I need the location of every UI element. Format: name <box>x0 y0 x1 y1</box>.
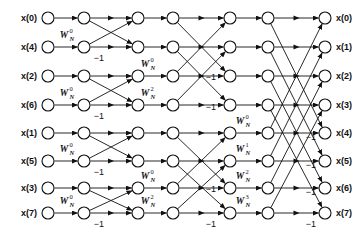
stage-2-straight-top-0-mid-arrow <box>199 16 205 21</box>
svg-text:W: W <box>60 30 69 40</box>
node-col-1-row-6 <box>78 182 90 194</box>
node-col-6-row-0 <box>319 12 331 24</box>
svg-text:0: 0 <box>70 27 73 34</box>
input-label-row-3: x(6) <box>21 100 37 110</box>
stage-1-minus-one-3: −1 <box>94 219 104 229</box>
svg-text:0: 0 <box>70 141 73 148</box>
output-label-row-4: x(4) <box>336 128 352 138</box>
node-col-6-row-5 <box>319 155 331 167</box>
fft-flow-graph-svg: WN0WN0WN0WN0WN0WN2WN0WN2WN0WN1WN2WN3 −1−… <box>0 0 364 236</box>
input-label-row-6: x(3) <box>21 183 37 193</box>
stage-2-twiddle-2: WN0 <box>141 168 156 183</box>
node-col-6-row-3 <box>319 99 331 111</box>
output-label-row-1: x(1) <box>336 42 352 52</box>
svg-text:N: N <box>150 64 156 71</box>
node-col-3-row-4 <box>167 127 179 139</box>
node-col-1-row-3 <box>78 99 90 111</box>
svg-text:W: W <box>60 144 69 154</box>
node-col-0-row-0 <box>42 12 54 24</box>
node-col-1-row-7 <box>78 207 90 219</box>
node-col-0-row-2 <box>42 70 54 82</box>
svg-text:W: W <box>141 171 150 181</box>
node-col-0-row-3 <box>42 99 54 111</box>
stage-2-straight-bottom-6-mid-arrow <box>199 186 205 191</box>
svg-text:N: N <box>150 176 156 183</box>
node-col-1-row-2 <box>78 70 90 82</box>
node-col-1-row-1 <box>78 41 90 53</box>
svg-text:W: W <box>141 59 150 69</box>
stage-1-straight-bottom-3-mid-arrow <box>108 103 114 108</box>
node-col-2-row-1 <box>132 41 144 53</box>
node-col-3-row-6 <box>167 182 179 194</box>
svg-text:0: 0 <box>246 113 249 120</box>
svg-text:2: 2 <box>151 85 154 92</box>
input-label-row-7: x(7) <box>21 208 37 218</box>
node-col-0-row-1 <box>42 41 54 53</box>
node-col-5-row-2 <box>262 70 274 82</box>
stage-3-twiddle-3: WN3 <box>236 193 251 208</box>
node-col-4-row-7 <box>224 207 236 219</box>
stage-2-twiddle-3: WN2 <box>141 193 156 208</box>
output-label-row-6: x(6) <box>336 183 352 193</box>
stage-1-twiddle-0: WN0 <box>60 27 75 42</box>
stage-1-minus-one-1: −1 <box>94 111 104 121</box>
fft-butterfly-diagram: WN0WN0WN0WN0WN0WN2WN0WN2WN0WN1WN2WN3 −1−… <box>0 0 364 236</box>
node-col-6-row-6 <box>319 182 331 194</box>
stage-1-straight-top-4-mid-arrow <box>108 131 114 136</box>
stage-1-twiddle-2: WN0 <box>60 141 75 156</box>
input-label-row-2: x(2) <box>21 71 37 81</box>
node-col-0-row-7 <box>42 207 54 219</box>
svg-text:N: N <box>245 201 251 208</box>
stage-1-twiddle-3: WN0 <box>60 193 75 208</box>
svg-text:N: N <box>245 176 251 183</box>
svg-text:0: 0 <box>151 168 154 175</box>
svg-text:W: W <box>141 88 150 98</box>
svg-text:1: 1 <box>246 141 249 148</box>
node-col-3-row-7 <box>167 207 179 219</box>
node-col-5-row-5 <box>262 155 274 167</box>
svg-text:N: N <box>150 93 156 100</box>
stage-3-straight-top-1-mid-arrow <box>294 45 300 50</box>
node-col-4-row-0 <box>224 12 236 24</box>
node-col-4-row-2 <box>224 70 236 82</box>
stage-3-minus-one-3: −1 <box>306 219 316 229</box>
svg-text:W: W <box>141 196 150 206</box>
stage-3-minus-one-1: −1 <box>306 160 316 170</box>
svg-text:N: N <box>150 201 156 208</box>
output-label-row-5: x(5) <box>336 156 352 166</box>
node-col-2-row-5 <box>132 155 144 167</box>
node-col-2-row-6 <box>132 182 144 194</box>
twiddle-labels-layer: WN0WN0WN0WN0WN0WN2WN0WN2WN0WN1WN2WN3 <box>60 27 251 208</box>
svg-text:W: W <box>236 196 245 206</box>
stage-3-straight-bottom-6-mid-arrow <box>294 186 300 191</box>
svg-text:0: 0 <box>151 56 154 63</box>
stage-2-straight-bottom-3-mid-arrow <box>199 103 205 108</box>
node-col-0-row-5 <box>42 155 54 167</box>
node-col-0-row-4 <box>42 127 54 139</box>
stage-1-minus-one-0: −1 <box>94 53 104 63</box>
stage-2-minus-one-2: −1 <box>206 184 216 194</box>
stage-1-straight-bottom-7-mid-arrow <box>108 211 114 216</box>
stage-2-straight-bottom-7-mid-arrow <box>199 211 205 216</box>
stage-1-straight-top-0-mid-arrow <box>108 16 114 21</box>
stage-1-straight-bottom-1-mid-arrow <box>108 45 114 50</box>
stage-1-minus-one-2: −1 <box>94 167 104 177</box>
node-col-1-row-0 <box>78 12 90 24</box>
node-col-5-row-6 <box>262 182 274 194</box>
svg-text:W: W <box>60 196 69 206</box>
svg-text:N: N <box>69 149 75 156</box>
node-col-2-row-7 <box>132 207 144 219</box>
output-label-row-3: x(3) <box>336 100 352 110</box>
stage-2-minus-one-0: −1 <box>206 72 216 82</box>
stage-1-twiddle-1: WN0 <box>60 85 75 100</box>
svg-text:W: W <box>60 88 69 98</box>
node-col-5-row-0 <box>262 12 274 24</box>
svg-text:N: N <box>69 201 75 208</box>
node-col-3-row-5 <box>167 155 179 167</box>
stage-1-straight-top-2-mid-arrow <box>108 74 114 79</box>
node-col-4-row-3 <box>224 99 236 111</box>
stage-2-minus-one-1: −1 <box>206 102 216 112</box>
svg-text:3: 3 <box>246 193 249 200</box>
stage-3-straight-top-0-mid-arrow <box>294 16 300 21</box>
output-label-row-7: x(7) <box>336 208 352 218</box>
